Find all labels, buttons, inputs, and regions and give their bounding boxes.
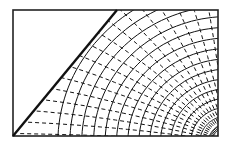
- flow-net-diagram: [0, 0, 229, 146]
- background: [0, 0, 229, 146]
